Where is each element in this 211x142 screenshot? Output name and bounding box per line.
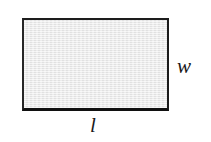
width-label: w xyxy=(177,56,191,77)
length-label: l xyxy=(90,115,96,136)
geometry-figure: w l xyxy=(0,0,211,142)
rectangle-shape xyxy=(22,18,169,111)
paper-texture-overlay xyxy=(24,20,167,108)
